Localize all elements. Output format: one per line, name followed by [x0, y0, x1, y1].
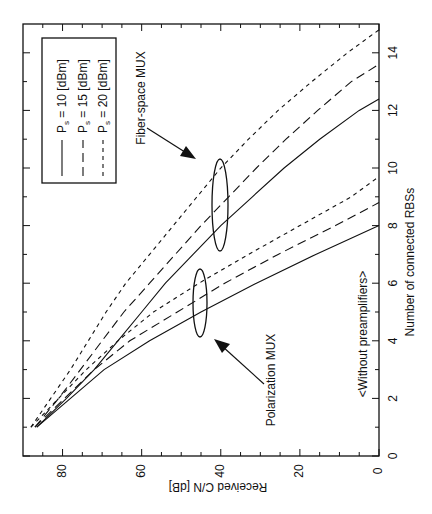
legend-label-2: Ps = 20 [dBm] — [96, 59, 112, 133]
annotations: Fiber-space MUX Polarization MUX <Withou… — [134, 51, 370, 426]
y-tick-label: 60 — [134, 464, 148, 478]
y-tick-label: 20 — [292, 464, 306, 478]
series-line-5 — [31, 177, 379, 428]
preamp-note: <Without preamplifiers> — [356, 271, 370, 398]
x-tick-label: 14 — [386, 46, 400, 60]
legend-label-1: Ps = 15 [dBm] — [76, 59, 92, 133]
y-tick-label: 40 — [213, 464, 227, 478]
x-tick-label: 2 — [386, 395, 400, 402]
y-tick-label: 0 — [371, 467, 385, 474]
fiber-group-ellipse — [212, 159, 228, 251]
y-axis-label: Received C/N [dB] — [169, 480, 268, 494]
polarization-group-ellipse — [193, 269, 207, 337]
series-line-3 — [37, 226, 379, 428]
x-tick-label: 8 — [386, 222, 400, 229]
x-axis-label: Number of connected RBSs — [403, 188, 417, 337]
x-tick-label: 10 — [386, 161, 400, 175]
x-tick-label: 6 — [386, 280, 400, 287]
x-tick-label: 12 — [386, 103, 400, 117]
y-tick-label: 80 — [55, 464, 69, 478]
x-tick-label: 4 — [386, 337, 400, 344]
rotated-line-chart: 02468101214020406080 Fiber-space MUX Pol… — [0, 0, 432, 514]
fiber-annotation: Fiber-space MUX — [134, 51, 148, 144]
fiber-arrow-icon — [147, 128, 196, 159]
polarization-annotation: Polarization MUX — [264, 334, 278, 427]
x-tick-label: 0 — [386, 452, 400, 459]
polarization-arrow-icon — [214, 339, 264, 384]
legend: Ps = 10 [dBm]Ps = 15 [dBm]Ps = 20 [dBm] — [42, 38, 116, 183]
legend-label-0: Ps = 10 [dBm] — [55, 59, 71, 133]
